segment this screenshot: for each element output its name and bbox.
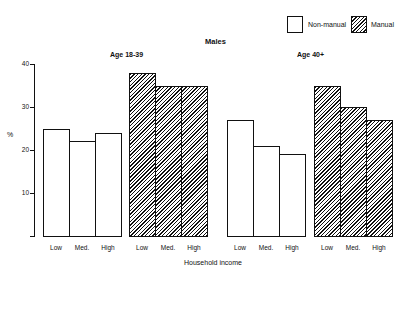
- y-axis-label: %: [7, 131, 13, 138]
- x-category-label: High: [279, 244, 305, 251]
- x-category-label: High: [181, 244, 207, 251]
- x-category-label: Low: [314, 244, 340, 251]
- x-category-label: Med.: [69, 244, 95, 251]
- legend-label-manual: Manual: [371, 21, 394, 28]
- y-tick-label-10: 10: [9, 189, 29, 196]
- chart-title: Males: [205, 37, 226, 46]
- y-tick-30: [30, 107, 35, 108]
- bar-age-18-39-manual-med: [155, 86, 182, 238]
- bar-age-40-plus-non-manual-med: [253, 146, 280, 237]
- bar-age-40-plus-manual-high: [366, 120, 393, 237]
- legend-label-non-manual: Non-manual: [308, 21, 346, 28]
- y-tick-20: [30, 150, 35, 151]
- bar-age-18-39-non-manual-med: [69, 141, 96, 237]
- x-category-label: Low: [43, 244, 69, 251]
- x-category-label: Low: [227, 244, 253, 251]
- bar-age-18-39-manual-high: [181, 86, 208, 238]
- x-category-label: Low: [129, 244, 155, 251]
- legend-swatch-non-manual: [287, 16, 303, 33]
- x-category-label: Med.: [155, 244, 181, 251]
- legend-swatch-manual: [351, 16, 367, 33]
- y-tick-10: [30, 193, 35, 194]
- x-category-label: Med.: [340, 244, 366, 251]
- bar-age-18-39-non-manual-low: [43, 129, 70, 238]
- x-category-label: High: [366, 244, 392, 251]
- bar-age-18-39-manual-low: [129, 73, 156, 237]
- y-tick-label-20: 20: [9, 146, 29, 153]
- y-tick-label-30: 30: [9, 103, 29, 110]
- bar-age-40-plus-non-manual-low: [227, 120, 254, 237]
- panel-label-age-18-39: Age 18-39: [110, 51, 143, 58]
- x-category-label: High: [95, 244, 121, 251]
- bar-age-40-plus-manual-low: [314, 86, 341, 238]
- y-tick-40: [30, 64, 35, 65]
- y-tick-label-40: 40: [9, 60, 29, 67]
- y-tick-0: [30, 236, 35, 237]
- panel-label-age-40-plus: Age 40+: [297, 51, 324, 58]
- bar-age-40-plus-manual-med: [340, 107, 367, 237]
- x-axis-label: Household income: [184, 259, 242, 266]
- bar-age-40-plus-non-manual-high: [279, 154, 306, 237]
- x-category-label: Med.: [253, 244, 279, 251]
- bar-age-18-39-non-manual-high: [95, 133, 122, 237]
